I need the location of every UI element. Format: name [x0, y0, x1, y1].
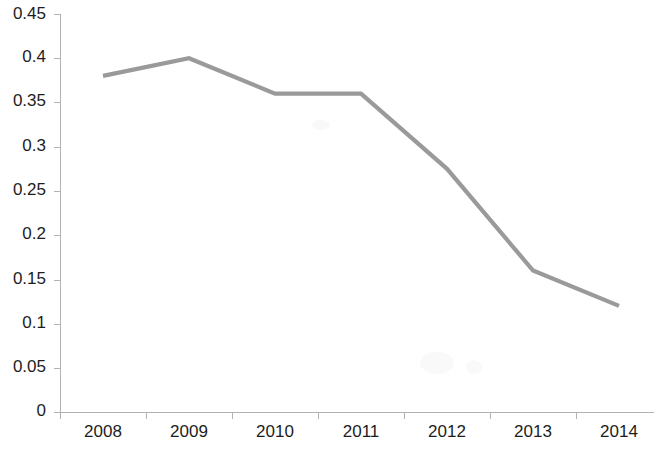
x-tick-label-2011: 2011 — [343, 422, 380, 441]
x-tick-label-2008: 2008 — [84, 422, 122, 441]
x-axis: 2008 2009 2010 2011 2012 2013 2014 — [60, 412, 654, 441]
line-chart: 0 0.05 0.1 0.15 0.2 0.25 0.3 0.35 0.4 0.… — [0, 0, 656, 451]
x-tick-label-2013: 2013 — [514, 422, 552, 441]
y-axis-labels: 0 0.05 0.1 0.15 0.2 0.25 0.3 0.35 0.4 0.… — [13, 4, 46, 420]
x-tick-label-2014: 2014 — [600, 422, 638, 441]
y-tick-label-5: 0.25 — [13, 180, 46, 199]
y-tick-label-9: 0.45 — [13, 4, 46, 23]
series-line-path — [103, 58, 619, 306]
y-tick-label-2: 0.1 — [22, 313, 46, 332]
y-tick-label-0: 0 — [37, 401, 46, 420]
y-tick-label-8: 0.4 — [22, 47, 46, 66]
y-tick-label-1: 0.05 — [13, 357, 46, 376]
plot-area — [103, 58, 619, 306]
y-tick-label-3: 0.15 — [13, 269, 46, 288]
x-tick-label-2010: 2010 — [256, 422, 294, 441]
y-tick-label-4: 0.2 — [22, 224, 46, 243]
x-tick-label-2009: 2009 — [170, 422, 208, 441]
y-axis: 0 0.05 0.1 0.15 0.2 0.25 0.3 0.35 0.4 0.… — [13, 4, 61, 420]
y-axis-ticks — [54, 15, 60, 413]
x-axis-labels: 2008 2009 2010 2011 2012 2013 2014 — [84, 422, 638, 441]
chart-canvas: 0 0.05 0.1 0.15 0.2 0.25 0.3 0.35 0.4 0.… — [0, 0, 656, 451]
y-tick-label-7: 0.35 — [13, 91, 46, 110]
x-tick-label-2012: 2012 — [428, 422, 466, 441]
y-tick-label-6: 0.3 — [22, 136, 46, 155]
